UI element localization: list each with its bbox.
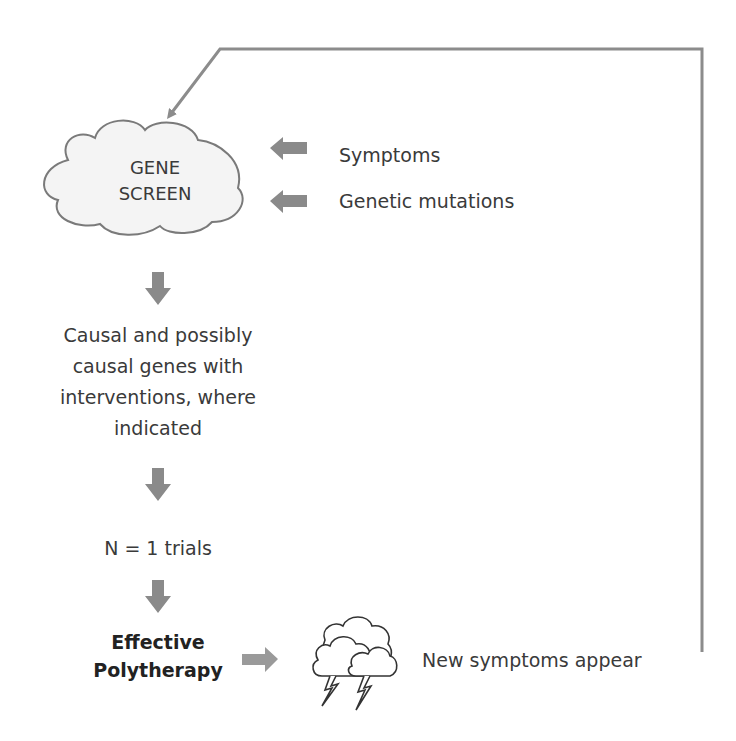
- gene-screen-line2: SCREEN: [90, 181, 220, 207]
- input-genetic-mutations-label: Genetic mutations: [339, 187, 514, 215]
- arrow-down-icon: [145, 468, 171, 501]
- causal-genes-line2: causal genes with: [28, 351, 288, 382]
- n-of-1-trials-node: N = 1 trials: [58, 534, 258, 562]
- storm-clouds-icon: [313, 617, 397, 710]
- polytherapy-line1: Effective: [88, 628, 228, 656]
- polytherapy-line2: Polytherapy: [88, 656, 228, 684]
- effective-polytherapy-node: Effective Polytherapy: [88, 628, 228, 684]
- arrow-left-icon: [270, 137, 307, 160]
- gene-screen-line1: GENE: [90, 155, 220, 181]
- causal-genes-line4: indicated: [28, 413, 288, 444]
- arrow-down-icon: [145, 272, 171, 305]
- new-symptoms-label: New symptoms appear: [422, 646, 642, 674]
- gene-screen-node: GENE SCREEN: [90, 155, 220, 207]
- arrow-left-icon: [270, 190, 307, 213]
- causal-genes-line1: Causal and possibly: [28, 320, 288, 351]
- causal-genes-line3: interventions, where: [28, 382, 288, 413]
- arrow-down-icon: [145, 580, 171, 613]
- arrow-right-icon: [242, 647, 278, 672]
- input-symptoms-label: Symptoms: [339, 141, 440, 169]
- causal-genes-node: Causal and possibly causal genes with in…: [28, 320, 288, 444]
